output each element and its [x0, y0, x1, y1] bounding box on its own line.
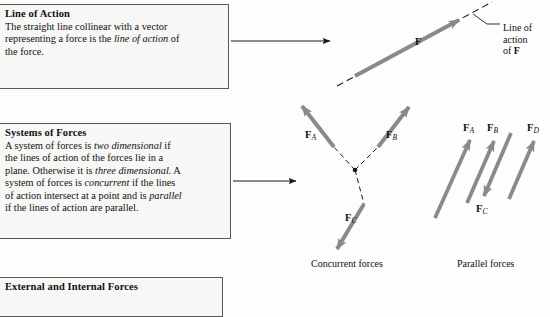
- force-vector-FA: [302, 106, 334, 147]
- force-subscript: B: [392, 133, 397, 142]
- callout-force-symbol: F: [514, 45, 520, 56]
- force-vector-FC: [484, 133, 511, 196]
- force-label-FD: FD: [527, 122, 539, 133]
- concurrent-forces-figure: [302, 106, 409, 249]
- dashed-line-of-action-A: [334, 147, 355, 170]
- force-subscript: C: [482, 207, 487, 216]
- force-vector-FD: [509, 141, 534, 199]
- force-label-FB: FB: [487, 122, 498, 133]
- force-label-FB: FB: [386, 129, 397, 140]
- callout-line-1: Line of: [503, 22, 532, 33]
- concurrency-point: [353, 168, 358, 173]
- callout-leader-line: [473, 14, 487, 24]
- force-symbol: F: [415, 36, 421, 47]
- dashed-line-of-action-B: [355, 147, 378, 170]
- force-subscript: D: [533, 126, 538, 135]
- caption-parallel-forces: Parallel forces: [457, 258, 514, 269]
- callout-line-2: action: [503, 34, 527, 45]
- force-subscript: C: [351, 216, 356, 225]
- line-of-action-callout: Line of action of F: [503, 22, 532, 57]
- force-vector-F: [355, 20, 459, 76]
- callout-line-3: of: [503, 45, 514, 56]
- force-label-FA: FA: [305, 129, 316, 140]
- dashed-line-of-action-C: [355, 170, 364, 204]
- force-vector-FB: [467, 141, 494, 203]
- force-subscript: B: [493, 126, 498, 135]
- force-label-FC: FC: [476, 203, 488, 214]
- force-vector-FA: [435, 140, 470, 218]
- force-label-F: F: [415, 36, 421, 47]
- force-label-FA: FA: [463, 122, 474, 133]
- force-subscript: A: [311, 133, 316, 142]
- caption-concurrent-forces: Concurrent forces: [311, 258, 383, 269]
- force-vector-FC: [337, 204, 364, 249]
- force-label-FC: FC: [345, 212, 357, 223]
- force-subscript: A: [469, 126, 474, 135]
